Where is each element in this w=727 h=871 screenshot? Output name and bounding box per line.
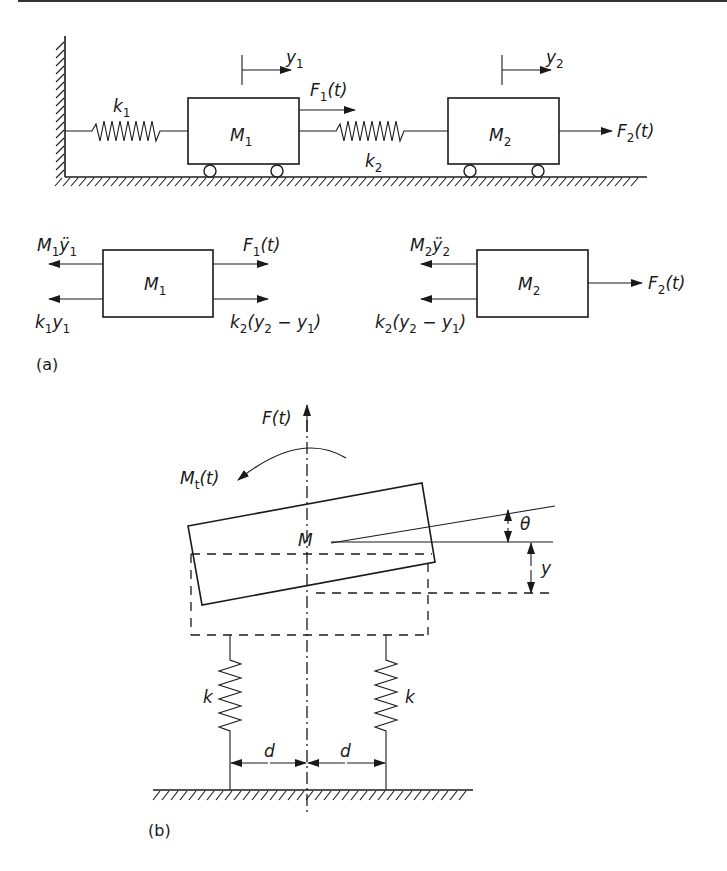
hatch-mark <box>56 90 64 98</box>
hatch-mark <box>95 178 102 186</box>
hatch-mark <box>432 791 439 800</box>
hatch-mark <box>183 178 190 186</box>
spring-right-label: k <box>405 687 416 707</box>
hatch-mark <box>239 178 246 186</box>
hatch-mark <box>441 791 448 800</box>
hatch-mark <box>495 178 502 186</box>
hatch-mark <box>535 178 542 186</box>
hatch-mark <box>414 791 421 800</box>
caption-b: (b) <box>148 821 171 840</box>
hatch-mark <box>423 791 430 800</box>
hatch-mark <box>559 178 566 186</box>
hatch-mark <box>631 178 638 186</box>
hatch-mark <box>607 178 614 186</box>
hatch-mark <box>407 178 414 186</box>
hatch-mark <box>360 791 367 800</box>
hatch-mark <box>378 791 385 800</box>
hatch-mark <box>56 154 64 162</box>
hatch-mark <box>383 178 390 186</box>
hatch-mark <box>63 178 70 186</box>
hatch-mark <box>261 791 268 800</box>
hatch-mark <box>234 791 241 800</box>
hatch-mark <box>56 130 64 138</box>
spring-k2-label: k2 <box>365 151 383 175</box>
hatch-mark <box>143 178 150 186</box>
caption-a: (a) <box>36 355 58 374</box>
hatch-mark <box>288 791 295 800</box>
hatch-mark <box>151 178 158 186</box>
hatch-mark <box>359 178 366 186</box>
fbd2-inertia-label: M2ÿ2 <box>410 235 450 259</box>
hatch-mark <box>423 178 430 186</box>
hatch-mark <box>55 178 62 186</box>
hatch-mark <box>303 178 310 186</box>
hatch-mark <box>327 178 334 186</box>
mass-m2-label: M2 <box>489 125 511 149</box>
hatch-mark <box>295 178 302 186</box>
hatch-mark <box>255 178 262 186</box>
hatch-mark <box>127 178 134 186</box>
offset-right-label: d <box>340 741 351 761</box>
mass-m1-wheel-right <box>271 165 283 177</box>
hatch-mark <box>591 178 598 186</box>
hatch-mark <box>599 178 606 186</box>
part-b: F(t) Mt(t) M θ y k k d <box>153 405 555 815</box>
hatch-mark <box>335 178 342 186</box>
hatch-mark <box>119 178 126 186</box>
hatch-mark <box>391 178 398 186</box>
part-a-fbd-m2: M2 M2ÿ2 k2(y2 − y1) F2(t) <box>375 235 685 336</box>
force-f2-label: F2(t) <box>617 121 654 145</box>
fbd1-coupling-force-label: k2(y2 − y1) <box>230 312 321 336</box>
hatch-mark <box>351 791 358 800</box>
hatch-mark <box>455 178 462 186</box>
hatch-mark <box>191 178 198 186</box>
hatch-mark <box>551 178 558 186</box>
hatch-mark <box>351 178 358 186</box>
hatch-mark <box>487 178 494 186</box>
moment-arc-arrow <box>238 448 346 480</box>
hatch-mark <box>71 178 78 186</box>
hatch-mark <box>479 178 486 186</box>
hatch-mark <box>333 791 340 800</box>
hatch-mark <box>543 178 550 186</box>
moment-label: Mt(t) <box>180 468 219 492</box>
fbd2-mass-label: M2 <box>518 274 540 298</box>
hatch-mark <box>367 178 374 186</box>
hatch-mark <box>396 791 403 800</box>
hatch-mark <box>575 178 582 186</box>
hatch-mark <box>459 791 466 800</box>
wall-hatching <box>56 42 64 178</box>
hatch-mark <box>199 178 206 186</box>
hatch-mark <box>175 178 182 186</box>
hatch-mark <box>297 791 304 800</box>
figure-canvas: k1 M1 y1 F1(t) k2 M2 y2 F2(t) M1 M1ÿ <box>0 0 727 871</box>
y2-label: y2 <box>545 47 564 71</box>
ground-hatching <box>55 178 638 186</box>
hatch-mark <box>375 178 382 186</box>
hatch-mark <box>207 178 214 186</box>
hatch-mark <box>243 791 250 800</box>
hatch-mark <box>135 178 142 186</box>
theta-label: θ <box>520 514 531 534</box>
fbd2-applied-force-label: F2(t) <box>648 273 685 297</box>
hatch-mark <box>279 791 286 800</box>
hatch-mark <box>247 178 254 186</box>
y-label: y <box>540 558 552 578</box>
part-a-fbd-m1: M1 M1ÿ1 k1y1 F1(t) k2(y2 − y1) <box>35 235 321 336</box>
hatch-mark <box>56 42 64 50</box>
hatch-mark <box>56 146 64 154</box>
hatch-mark <box>471 178 478 186</box>
force-f1-label: F1(t) <box>310 80 347 104</box>
fbd1-spring-force-label: k1y1 <box>35 312 70 336</box>
fbd1-applied-force-label: F1(t) <box>243 235 280 259</box>
hatch-mark <box>207 791 214 800</box>
hatch-mark <box>198 791 205 800</box>
hatch-mark <box>450 791 457 800</box>
hatch-mark <box>405 791 412 800</box>
hatch-mark <box>319 178 326 186</box>
hatch-mark <box>56 170 64 178</box>
spring-k1 <box>65 121 188 141</box>
hatch-mark <box>511 178 518 186</box>
hatch-mark <box>56 82 64 90</box>
rigid-body-mass-label: M <box>298 530 313 550</box>
